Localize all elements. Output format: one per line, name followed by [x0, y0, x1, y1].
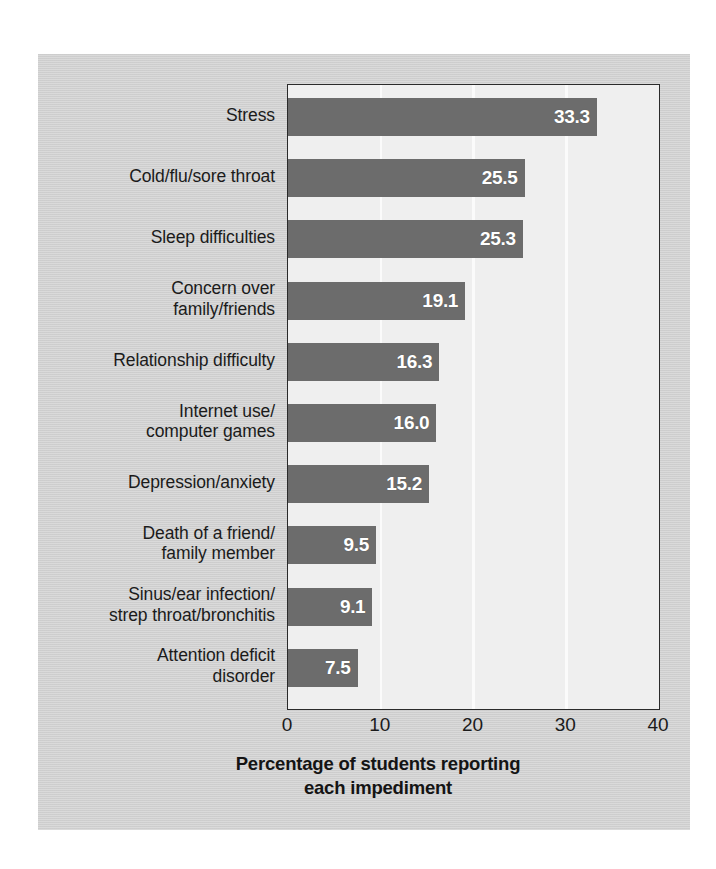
bar: 7.5	[288, 649, 358, 687]
x-tick-label-30: 30	[555, 714, 576, 736]
x-tick-label-0: 0	[282, 714, 293, 736]
bar: 16.0	[288, 404, 436, 442]
bar: 25.3	[288, 220, 523, 258]
bar-row: 25.5	[288, 159, 525, 197]
bar-row: 16.0	[288, 404, 436, 442]
category-label: Sinus/ear infection/ strep throat/bronch…	[38, 584, 275, 625]
bar-row: 19.1	[288, 282, 465, 320]
bar-value-label: 16.3	[396, 351, 432, 373]
category-label: Cold/flu/sore throat	[38, 166, 275, 187]
bar-value-label: 9.1	[340, 596, 366, 618]
bar: 9.1	[288, 588, 372, 626]
category-label: Attention deficit disorder	[38, 645, 275, 686]
x-axis-tick-labels: 010203040	[287, 714, 658, 742]
bar-row: 15.2	[288, 465, 429, 503]
category-label: Stress	[38, 105, 275, 126]
category-label: Relationship difficulty	[38, 350, 275, 371]
gridline-30	[565, 85, 568, 709]
x-tick-label-40: 40	[647, 714, 668, 736]
bar-value-label: 15.2	[386, 473, 422, 495]
bar-row: 25.3	[288, 220, 523, 258]
bar-value-label: 16.0	[394, 412, 430, 434]
bar: 33.3	[288, 98, 597, 136]
category-axis-labels: StressCold/flu/sore throatSleep difficul…	[38, 84, 275, 708]
category-label: Sleep difficulties	[38, 227, 275, 248]
bar: 25.5	[288, 159, 525, 197]
bar-value-label: 25.5	[482, 167, 518, 189]
bar-row: 16.3	[288, 343, 439, 381]
bar-value-label: 25.3	[480, 228, 516, 250]
bar-value-label: 19.1	[422, 290, 458, 312]
bar-row: 9.5	[288, 526, 376, 564]
bar: 9.5	[288, 526, 376, 564]
x-tick-label-20: 20	[462, 714, 483, 736]
bar: 16.3	[288, 343, 439, 381]
x-tick-label-10: 10	[369, 714, 390, 736]
bar: 15.2	[288, 465, 429, 503]
x-axis-title: Percentage of students reporting each im…	[98, 752, 658, 800]
bar-row: 9.1	[288, 588, 372, 626]
category-label: Depression/anxiety	[38, 472, 275, 493]
bar-value-label: 9.5	[344, 534, 370, 556]
plot-area: 33.325.525.319.116.316.015.29.59.17.5	[287, 84, 660, 710]
category-label: Concern over family/friends	[38, 278, 275, 319]
bar-row: 7.5	[288, 649, 358, 687]
category-label: Death of a friend/ family member	[38, 523, 275, 564]
figure-panel: StressCold/flu/sore throatSleep difficul…	[38, 54, 690, 830]
bar-value-label: 7.5	[325, 657, 351, 679]
bar: 19.1	[288, 282, 465, 320]
bar-value-label: 33.3	[554, 106, 590, 128]
bar-row: 33.3	[288, 98, 597, 136]
category-label: Internet use/ computer games	[38, 401, 275, 442]
